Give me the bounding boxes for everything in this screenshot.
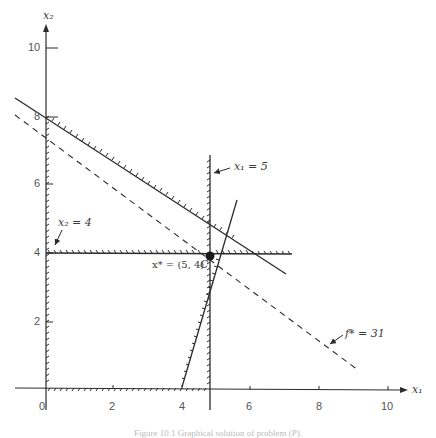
y-tick-8: 8 <box>34 110 40 122</box>
objective-line <box>15 115 358 370</box>
x-axis-label: x₁ <box>412 383 423 396</box>
x1-label-arrow <box>214 168 230 173</box>
x-tick-8: 8 <box>316 400 322 412</box>
x2-label-arrow <box>55 230 62 245</box>
constraint-sloped <box>15 98 286 274</box>
constraint-x1-eq-5 <box>207 155 210 410</box>
x2-constraint-label: x₂ = 4 <box>58 216 92 229</box>
figure-caption: Figure 10.1 Graphical solution of proble… <box>0 428 436 438</box>
x-tick-6: 6 <box>246 400 252 412</box>
point-c-label: C <box>200 258 208 271</box>
x-tick-4: 4 <box>179 400 185 412</box>
optimum-label: x* = (5, 4) <box>152 259 204 270</box>
x-tick-2: 2 <box>109 400 115 412</box>
y-axis-label: x₂ <box>43 9 54 22</box>
x1-constraint-label: x₁ = 5 <box>234 160 268 173</box>
x-tick-0: 0 <box>39 400 45 412</box>
y-tick-10: 10 <box>28 41 40 53</box>
y-tick-4: 4 <box>34 246 40 258</box>
objective-label: f* = 31 <box>345 327 385 340</box>
x-tick-10: 10 <box>381 400 393 412</box>
x-axis <box>15 387 408 393</box>
y-ticks <box>46 48 58 322</box>
objective-label-arrow <box>330 335 343 344</box>
y-tick-2: 2 <box>34 315 40 327</box>
y-tick-6: 6 <box>34 177 40 189</box>
y-axis <box>43 24 49 410</box>
